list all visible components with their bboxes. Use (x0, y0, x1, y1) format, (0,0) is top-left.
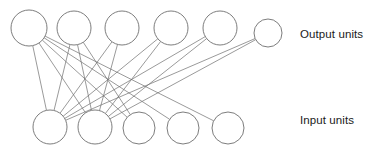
connection-edge (105, 41, 160, 113)
output-unit-o1 (11, 10, 47, 46)
connection-edge (63, 39, 158, 116)
input-unit-i3 (123, 112, 155, 144)
output-unit-o6 (254, 19, 282, 47)
output-unit-o3 (105, 11, 139, 45)
connection-edges (33, 36, 256, 121)
output-unit-o2 (57, 11, 91, 45)
output-units-label: Output units (300, 28, 363, 40)
unit-nodes (11, 10, 282, 144)
connection-edge (78, 45, 92, 111)
connection-edge (66, 39, 256, 121)
input-units-label: Input units (300, 114, 354, 126)
input-unit-i4 (167, 112, 199, 144)
connection-edge (54, 45, 70, 111)
connection-edge (39, 43, 86, 113)
network-diagram: Output units Input units (0, 0, 375, 146)
connection-edge (108, 39, 206, 117)
output-unit-o4 (154, 11, 188, 45)
input-unit-i5 (212, 112, 244, 144)
input-unit-i1 (33, 110, 67, 144)
output-unit-o5 (203, 11, 237, 45)
input-unit-i2 (78, 110, 112, 144)
connection-edge (33, 46, 47, 111)
